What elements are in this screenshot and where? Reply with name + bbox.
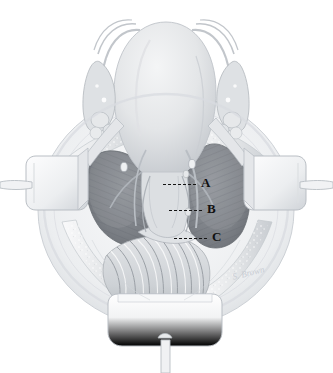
- illustration-figure: A B C S. Brown: [0, 0, 333, 373]
- retractor-blade-right[interactable]: [244, 148, 333, 210]
- retractor-blade-inferior[interactable]: [108, 294, 222, 373]
- uterine-fundus: [114, 22, 216, 172]
- label-a: A: [201, 176, 210, 189]
- leader-line-b: [169, 210, 202, 211]
- leader-line-c: [174, 238, 207, 239]
- anatomy-illustration-canvas: [0, 0, 333, 373]
- label-b: B: [207, 202, 216, 215]
- leader-line-a: [163, 184, 196, 185]
- retractor-blade-left[interactable]: [0, 148, 88, 210]
- label-c: C: [212, 230, 221, 243]
